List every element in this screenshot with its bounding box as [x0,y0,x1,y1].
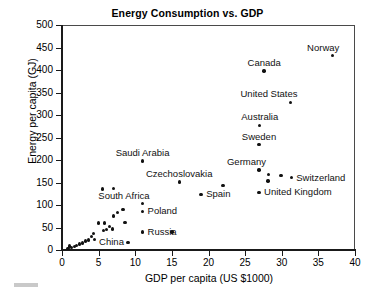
x-tick-mark [282,250,283,256]
x-tick-mark [135,250,136,256]
data-point [141,159,144,162]
x-tick-label: 40 [335,258,375,268]
data-point [66,247,69,250]
data-point-label: Poland [148,206,178,216]
y-tick-mark [56,93,63,94]
x-tick-label: 5 [79,258,119,268]
y-tick-mark [56,138,63,139]
x-tick-label: 10 [115,258,155,268]
data-point-label: Australia [241,112,278,122]
x-tick-label: 15 [152,258,192,268]
x-axis-label: GDP per capita (US $1000) [62,272,356,284]
x-tick-mark [62,250,63,256]
y-tick-label: 100 [0,200,53,210]
y-tick-mark [56,160,63,161]
x-tick-label: 35 [298,258,338,268]
x-tick-label: 25 [225,258,265,268]
data-point-label: United States [240,89,297,99]
x-tick-mark [172,250,173,256]
chart-title: Energy Consumption vs. GDP [0,7,375,19]
y-tick-label: 500 [0,20,53,30]
data-point-label: South Africa [98,191,149,201]
scatter-chart: Energy Consumption vs. GDP 0501001502002… [0,0,375,291]
x-tick-label: 30 [262,258,302,268]
data-point-label: Switzerland [296,173,345,183]
y-tick-mark [56,70,63,71]
data-point [81,241,84,244]
plot-area [62,25,355,250]
x-tick-mark [209,250,210,256]
data-point [112,187,115,190]
x-tick-label: 0 [42,258,82,268]
data-point-label: Saudi Arabia [116,148,170,158]
data-point [103,221,106,224]
data-point-label: Spain [206,189,230,199]
data-point [87,238,90,241]
x-tick-label: 20 [189,258,229,268]
data-point-label: China [99,237,124,247]
data-point [112,214,115,217]
x-tick-mark [245,250,246,256]
data-point [126,241,129,244]
data-point [279,174,282,177]
scan-artifact [14,283,38,287]
y-tick-label: 50 [0,223,53,233]
data-point [123,221,126,224]
y-tick-mark [56,205,63,206]
data-point-label: Canada [248,58,281,68]
x-tick-mark [99,250,100,256]
data-point [262,69,265,72]
data-point [141,230,144,233]
y-tick-mark [56,228,63,229]
data-point [101,187,104,190]
data-point [97,221,100,224]
y-axis-label: Energy per capita (GJ) [26,31,38,191]
y-tick-mark [56,25,63,26]
data-point [257,168,260,171]
data-point-label: United Kingdom [264,187,332,197]
data-point [266,179,269,182]
x-tick-mark [355,250,356,256]
y-tick-mark [56,48,63,49]
data-point [84,239,87,242]
data-point [257,191,260,194]
data-point [178,180,181,183]
data-point-label: Germany [227,157,266,167]
data-point-label: Norway [307,43,339,53]
y-tick-label: 0 [0,245,53,255]
data-point [93,238,96,241]
data-point [170,230,173,233]
data-point-label: Sweden [242,132,276,142]
y-tick-mark [56,183,63,184]
data-point-label: Czechoslovakia [146,169,213,179]
x-tick-mark [318,250,319,256]
data-point [199,193,202,196]
y-tick-mark [56,115,63,116]
data-point [111,227,114,230]
data-point [121,208,124,211]
